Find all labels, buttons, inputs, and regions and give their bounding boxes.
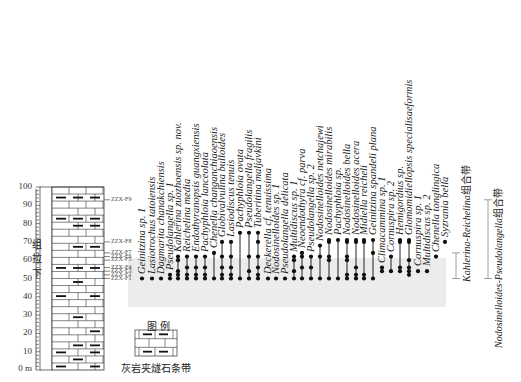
sample-label: ZZX-F8 xyxy=(111,238,132,244)
depth-tick-label: 90 xyxy=(6,199,32,209)
depth-tick-label: 10 xyxy=(6,346,32,356)
depth-tick-label: 40 xyxy=(6,291,32,301)
formation-name-char-3: 组 xyxy=(32,236,42,251)
sample-label: ZZX-F4 xyxy=(111,264,132,270)
zone-suffix: 组合带 xyxy=(493,188,504,218)
formation-name-char-1: 下 xyxy=(32,265,42,280)
formation-name-char-2: 拉 xyxy=(32,250,42,265)
zone-name: Nodosinelloides-Pseudolangella xyxy=(493,218,504,348)
depth-tick-label: 100 xyxy=(6,181,32,191)
taxon-label: Syzrania bella xyxy=(439,177,450,237)
legend-caption: 灰岩夹燧石条带 xyxy=(121,360,191,375)
zone-name: Kahlerina-Reichelina xyxy=(461,195,472,282)
zone-label-nodosinelloides-pseudolangella: Nodosinelloides-Pseudolangella组合带 xyxy=(490,188,505,348)
depth-tick-label: 50 xyxy=(6,273,32,283)
depth-tick-label: 30 xyxy=(6,309,32,319)
zone-label-kahlerina-reichelina: Kahlerina-Reichelina组合带 xyxy=(458,165,473,282)
sample-label: ZZX-F7 xyxy=(111,249,132,255)
depth-tick-label: 60 xyxy=(6,254,32,264)
depth-tick-label: 20 xyxy=(6,327,32,337)
sample-label: ZZX-F9 xyxy=(111,196,132,202)
legend-title: 图例 xyxy=(147,318,173,333)
depth-axis-unit: 0 m xyxy=(0,363,32,373)
depth-tick-label: 80 xyxy=(6,218,32,228)
depth-tick-label: 70 xyxy=(6,236,32,246)
zone-suffix: 组合带 xyxy=(461,165,472,195)
